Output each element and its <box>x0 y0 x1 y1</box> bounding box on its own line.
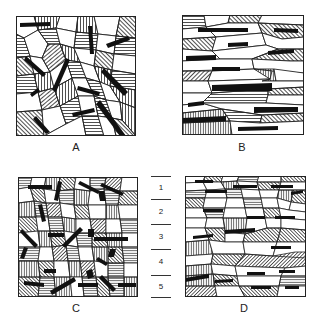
panel-d-texture <box>185 176 306 297</box>
scale-tick <box>151 176 171 177</box>
scale-level-3: 3 <box>155 232 167 241</box>
panel-a-texture <box>16 16 136 136</box>
panel-d-label: D <box>234 302 254 314</box>
scale-level-1: 1 <box>155 183 167 192</box>
scale-tick <box>151 224 171 225</box>
panel-b-label: B <box>232 141 252 153</box>
scale-level-4: 4 <box>155 257 167 266</box>
scale-tick <box>151 275 171 276</box>
panel-c <box>18 177 138 297</box>
panel-b <box>182 15 304 135</box>
scale-level-2: 2 <box>155 207 167 216</box>
panel-c-texture <box>18 177 138 297</box>
panel-a <box>16 16 136 136</box>
scale-tick <box>151 297 171 298</box>
scale-tick <box>151 199 171 200</box>
panel-a-label: A <box>66 141 86 153</box>
scale-level-5: 5 <box>155 282 167 291</box>
panel-c-label: C <box>66 302 86 314</box>
panel-b-texture <box>182 15 304 135</box>
panel-d <box>185 176 306 297</box>
scale-tick <box>151 249 171 250</box>
